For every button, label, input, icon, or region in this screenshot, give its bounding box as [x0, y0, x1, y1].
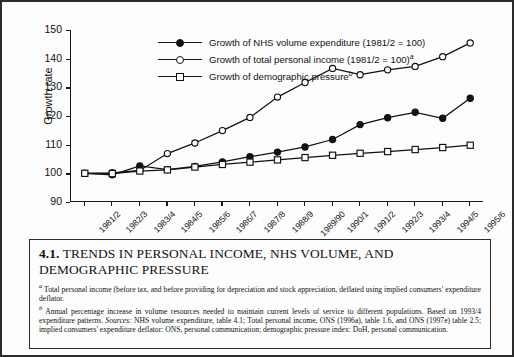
caption-text: TRENDS IN PERSONAL INCOME, NHS VOLUME, A…	[39, 246, 394, 277]
y-tick-label: 140	[36, 52, 62, 64]
x-tick-label: 1987/8	[262, 209, 288, 235]
chart-plot-area: Growth rate 15014013012011010090 1981/21…	[6, 6, 508, 234]
y-tick-mark	[66, 145, 70, 146]
legend-marker-open-circle-icon	[176, 56, 184, 64]
x-tick-mark	[84, 202, 85, 206]
y-tick-label: 120	[36, 109, 62, 121]
footnote: b Annual percentage increase in volume r…	[39, 303, 481, 334]
y-tick-label: 150	[36, 23, 62, 35]
x-tick-label: 1995/6	[482, 209, 508, 235]
x-tick-label: 1992/3	[399, 209, 425, 235]
legend-swatch	[158, 37, 202, 49]
x-tick-label: 1989/90	[318, 209, 347, 238]
data-point-marker	[385, 148, 391, 154]
x-tick-mark	[442, 202, 443, 206]
legend-item: Growth of NHS volume expenditure (1981/2…	[158, 34, 425, 51]
y-tick-label: 130	[36, 80, 62, 92]
data-point-marker	[274, 157, 280, 163]
caption-title: 4.1. TRENDS IN PERSONAL INCOME, NHS VOLU…	[39, 246, 481, 277]
x-tick-mark	[387, 202, 388, 206]
y-tick-mark	[66, 30, 70, 31]
data-point-marker	[192, 164, 198, 170]
x-tick-label: 1994/5	[454, 209, 480, 235]
data-point-marker	[440, 54, 446, 60]
legend-swatch	[158, 54, 202, 66]
legend-item: Growth of demographic pressureb	[158, 68, 425, 85]
data-point-marker	[357, 122, 363, 128]
x-tick-mark	[221, 202, 222, 206]
legend-swatch	[158, 71, 202, 83]
x-tick-mark	[277, 202, 278, 206]
data-point-marker	[247, 159, 253, 165]
x-tick-mark	[359, 202, 360, 206]
data-point-marker	[385, 115, 391, 121]
figure-outer-frame: Growth rate 15014013012011010090 1981/21…	[0, 0, 514, 357]
x-tick-label: 1983/4	[152, 209, 178, 235]
data-point-marker	[467, 40, 473, 46]
data-point-marker	[164, 167, 170, 173]
data-point-marker	[329, 152, 335, 158]
footnote: a Total personal income (before tax, and…	[39, 281, 481, 303]
x-tick-mark	[166, 202, 167, 206]
x-tick-label: 1991/2	[372, 209, 398, 235]
data-point-marker	[440, 115, 446, 121]
x-tick-mark	[414, 202, 415, 206]
legend-label: Growth of NHS volume expenditure (1981/2…	[209, 37, 425, 48]
x-tick-label: 1993/4	[427, 209, 453, 235]
x-tick-label: 1984/5	[179, 209, 205, 235]
legend-label: Growth of total personal income (1981/2 …	[209, 53, 414, 65]
data-point-marker	[302, 144, 308, 150]
data-point-marker	[219, 128, 225, 134]
chart-legend: Growth of NHS volume expenditure (1981/2…	[158, 34, 425, 85]
legend-footnote-mark: b	[349, 70, 353, 77]
x-tick-label: 1986/7	[234, 209, 260, 235]
x-tick-mark	[304, 202, 305, 206]
data-point-marker	[412, 109, 418, 115]
legend-marker-open-square-icon	[176, 73, 184, 81]
data-point-marker	[467, 95, 473, 101]
data-point-marker	[247, 114, 253, 120]
data-point-marker	[137, 168, 143, 174]
y-tick-label: 100	[36, 166, 62, 178]
data-point-marker	[164, 150, 170, 156]
y-tick-mark	[66, 87, 70, 88]
legend-marker-filled-circle-icon	[176, 39, 184, 47]
y-tick-mark	[66, 59, 70, 60]
data-point-marker	[357, 150, 363, 156]
y-tick-mark	[66, 173, 70, 174]
data-point-marker	[467, 142, 473, 148]
data-point-marker	[192, 140, 198, 146]
y-tick-label: 90	[36, 195, 62, 207]
x-tick-mark	[111, 202, 112, 206]
footnote-text: Total personal income (before tax, and b…	[39, 285, 481, 303]
data-point-marker	[274, 149, 280, 155]
x-tick-mark	[249, 202, 250, 206]
data-point-marker	[412, 146, 418, 152]
data-point-marker	[219, 161, 225, 167]
caption-number: 4.1.	[39, 246, 60, 261]
x-tick-label: 1990/1	[344, 209, 370, 235]
legend-footnote-mark: a	[410, 53, 414, 60]
x-tick-mark	[469, 202, 470, 206]
data-point-marker	[274, 94, 280, 100]
x-tick-label: 1981/2	[96, 209, 122, 235]
sources-label: Sources:	[103, 316, 132, 325]
legend-label: Growth of demographic pressureb	[209, 70, 353, 82]
x-tick-mark	[332, 202, 333, 206]
data-point-marker	[109, 171, 115, 177]
y-tick-mark	[66, 116, 70, 117]
data-point-marker	[302, 154, 308, 160]
x-tick-label: 1988/9	[289, 209, 315, 235]
data-point-marker	[329, 136, 335, 142]
data-point-marker	[82, 170, 88, 176]
x-tick-mark	[139, 202, 140, 206]
y-tick-label: 110	[36, 138, 62, 150]
data-point-marker	[440, 144, 446, 150]
caption-box: 4.1. TRENDS IN PERSONAL INCOME, NHS VOLU…	[29, 239, 491, 349]
x-tick-label: 1985/6	[207, 209, 233, 235]
legend-item: Growth of total personal income (1981/2 …	[158, 51, 425, 68]
footnotes-block: a Total personal income (before tax, and…	[39, 281, 481, 334]
x-tick-label: 1982/3	[124, 209, 150, 235]
y-tick-mark	[66, 202, 70, 203]
x-tick-mark	[194, 202, 195, 206]
